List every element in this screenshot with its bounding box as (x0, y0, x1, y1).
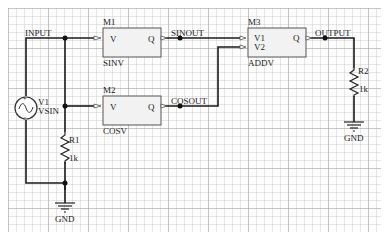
r2-value: 1k (359, 84, 369, 94)
m1-output-port-icon (161, 36, 167, 40)
r1-value: 1k (69, 153, 79, 163)
component-gnd2[interactable]: GND (344, 122, 364, 143)
net-label-input[interactable]: INPUT (25, 28, 52, 38)
m1-model: SINV (103, 58, 125, 68)
m1-pin-v: V (110, 34, 117, 44)
m1-input-port-icon (94, 36, 101, 40)
m1-pin-q: Q (148, 34, 155, 44)
m2-output-port-icon (161, 104, 167, 108)
r2-ref: R2 (358, 66, 369, 76)
v1-model: VSIN (38, 106, 60, 116)
m1-ref: M1 (103, 17, 116, 27)
m2-pin-q: Q (148, 102, 155, 112)
m3-input1-port-icon (240, 36, 246, 40)
m2-pin-v: V (110, 102, 117, 112)
m3-pin-v2: V2 (254, 42, 265, 52)
m3-ref: M3 (248, 17, 261, 27)
schematic-drawing: INPUT SINOUT COSOUT OUTPUT M1 V Q SINV M… (0, 0, 389, 241)
wire-input-top[interactable] (26, 38, 94, 96)
m3-input2-port-icon (240, 45, 246, 49)
r1-ref: R1 (69, 135, 80, 145)
component-m2[interactable]: M2 V Q COSV (94, 85, 167, 136)
component-m3[interactable]: M3 V1 V2 Q ADDV (240, 17, 312, 68)
m2-model: COSV (103, 126, 128, 136)
component-r2[interactable]: R2 1k (350, 66, 369, 97)
m2-input-port-icon (94, 104, 101, 108)
ground-icon (344, 122, 364, 131)
wires (26, 38, 354, 203)
ground-icon (55, 203, 75, 212)
junction-input (63, 36, 68, 41)
net-label-sinout[interactable]: SINOUT (171, 28, 205, 38)
wire-v1-to-gnd[interactable] (26, 120, 65, 183)
wire-output[interactable] (309, 38, 354, 68)
net-label-output[interactable]: OUTPUT (315, 28, 351, 38)
m3-pin-q: Q (293, 33, 300, 43)
resistor-r2-icon (350, 68, 358, 97)
component-v1[interactable]: + − V1 VSIN (15, 96, 60, 120)
m3-output-port-icon (306, 36, 312, 40)
component-gnd1[interactable]: GND (55, 203, 75, 224)
component-r1[interactable]: R1 1k (60, 132, 80, 164)
m2-ref: M2 (103, 85, 116, 95)
gnd1-label: GND (55, 214, 75, 224)
component-m1[interactable]: M1 V Q SINV (94, 17, 167, 68)
junction-input-m2 (63, 104, 68, 109)
gnd2-label: GND (344, 133, 364, 143)
net-label-cosout[interactable]: COSOUT (171, 96, 208, 106)
junction-gnd (63, 181, 68, 186)
m3-model: ADDV (248, 58, 274, 68)
schematic-canvas[interactable]: INPUT SINOUT COSOUT OUTPUT M1 V Q SINV M… (0, 0, 389, 241)
